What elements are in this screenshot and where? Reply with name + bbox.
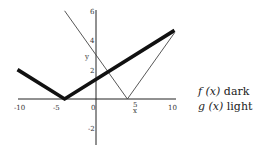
y-axis-label: y: [84, 53, 89, 61]
x-tick-label: 10: [168, 104, 177, 112]
legend-label: light: [227, 100, 253, 113]
legend: f (x) dark g (x) light: [198, 84, 252, 114]
g-function-line: [65, 11, 175, 99]
x-tick-label: 0: [91, 104, 95, 112]
legend-item-f: f (x) dark: [198, 84, 252, 99]
x-tick-label: -5: [53, 104, 60, 112]
legend-func: f (x): [198, 85, 220, 98]
x-tick-label: -10: [14, 104, 25, 112]
legend-func: g (x): [198, 100, 223, 113]
legend-item-g: g (x) light: [198, 99, 252, 114]
y-tick-label: -2: [88, 125, 95, 133]
y-tick-label: 2: [90, 67, 94, 75]
legend-label: dark: [224, 85, 250, 98]
y-tick-label: 6: [90, 8, 95, 16]
plot-area: -10 -5 0 5 x 10 6 4 y 2 -2: [0, 0, 190, 150]
x-axis-label: x: [133, 107, 137, 115]
y-tick-label: 4: [90, 37, 95, 45]
